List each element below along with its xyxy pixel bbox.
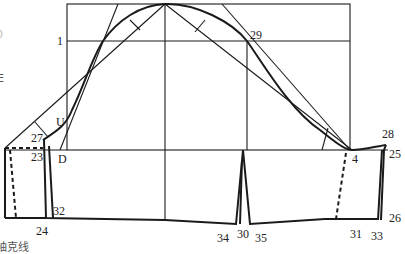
sleeve-cap-curve <box>43 4 386 150</box>
label-29: 29 <box>250 29 262 41</box>
perp-left-top <box>130 20 140 30</box>
label-34: 34 <box>217 232 229 244</box>
label-28: 28 <box>382 128 394 140</box>
label-35: 35 <box>255 232 267 244</box>
right-dashed-seam <box>336 153 346 219</box>
label-D: D <box>58 153 67 165</box>
label-24: 24 <box>36 225 48 237</box>
diag-left-front <box>5 4 165 148</box>
label-25: 25 <box>389 148 401 160</box>
label-26: 26 <box>389 212 401 224</box>
label-30: 30 <box>237 228 249 240</box>
label-32: 32 <box>53 205 65 217</box>
label-33: 33 <box>371 230 383 242</box>
diag-right-back <box>165 4 352 150</box>
left-dashed-seam <box>10 150 16 218</box>
perp-right-top <box>195 20 205 32</box>
label-4: 4 <box>352 153 358 165</box>
side-text-e: E <box>0 72 4 85</box>
label-U: U <box>56 116 65 128</box>
diag-left-steep <box>60 4 118 150</box>
side-text-0: 0 <box>0 28 3 41</box>
label-31: 31 <box>350 228 362 240</box>
side-text-caption: 袖克线 <box>0 238 29 254</box>
diag-right-steep <box>222 4 350 150</box>
label-1: 1 <box>57 35 63 47</box>
label-27: 27 <box>31 132 43 144</box>
label-23: 23 <box>31 151 43 163</box>
